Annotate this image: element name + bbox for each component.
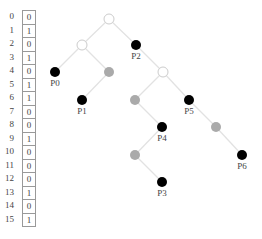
tree-node-leaf (50, 67, 60, 77)
tree-edge (135, 72, 163, 100)
node-label: P5 (184, 106, 194, 116)
tree-node-leaf (157, 122, 167, 132)
tree-node-empty (77, 40, 87, 50)
tree-node-leaf (184, 95, 194, 105)
node-label: P4 (157, 133, 167, 143)
tree-node-leaf (131, 40, 141, 50)
tree-node-gray (104, 67, 114, 77)
node-label: P6 (237, 161, 247, 171)
tree-node-leaf (237, 150, 247, 160)
tree-edge (82, 72, 109, 100)
binary-trie-diagram: P2P0P1P5P4P6P3 (0, 0, 262, 239)
tree-edge (163, 72, 189, 100)
tree-edge (55, 45, 82, 72)
node-label: P0 (50, 78, 60, 88)
tree-edge (135, 100, 162, 127)
tree-node-leaf (77, 95, 87, 105)
tree-edge (135, 155, 162, 182)
tree-node-gray (130, 150, 140, 160)
tree-node-gray (211, 122, 221, 132)
tree-edge (82, 45, 109, 72)
tree-node-gray (130, 95, 140, 105)
tree-node-leaf (157, 177, 167, 187)
tree-edge (216, 127, 242, 155)
node-label: P1 (77, 106, 87, 116)
node-label: P2 (131, 51, 141, 61)
tree-node-empty (158, 67, 168, 77)
tree-node-empty (104, 14, 114, 24)
tree-edge (109, 19, 136, 45)
node-label: P3 (157, 188, 167, 198)
tree-edge (82, 19, 109, 45)
